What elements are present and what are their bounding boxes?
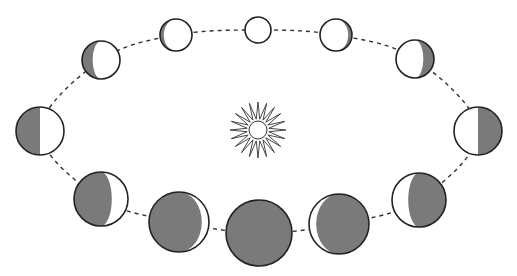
venus-phase-new: [226, 200, 292, 266]
venus-phase-waning-gibbous-1: [320, 19, 352, 51]
venus-phase-waning-crescent-2: [309, 194, 369, 254]
venus-phase-waxing-gibbous-2: [82, 41, 120, 79]
venus-phase-full: [245, 17, 271, 43]
venus-phase-waning-crescent-1: [392, 173, 446, 227]
venus-phase-last-quarter: [454, 107, 502, 155]
venus-phases-diagram: Phases of Venus orbiting the Sun: [0, 0, 517, 276]
venus-phase-waxing-crescent-1: [74, 172, 128, 226]
venus-phase-waxing-crescent-2: [149, 192, 209, 252]
venus-phase-first-quarter: [16, 107, 64, 155]
venus-phase-waning-gibbous-2: [396, 40, 434, 78]
venus-phase-waxing-gibbous-1: [160, 19, 192, 51]
sun-core: [249, 121, 267, 139]
